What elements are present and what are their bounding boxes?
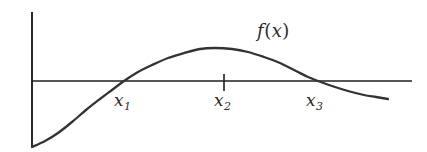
function-label-arg: x — [272, 20, 282, 41]
root-label-x1-subscript: 1 — [124, 100, 132, 113]
root-label-x1: x1 — [114, 92, 131, 112]
root-label-x2-base: x — [214, 90, 224, 110]
plot-canvas — [0, 0, 427, 152]
root-label-x3: x3 — [306, 92, 323, 112]
curve-group — [32, 48, 388, 147]
function-label-close-paren: ) — [282, 20, 290, 41]
root-label-x1-base: x — [114, 90, 124, 110]
root-label-x3-base: x — [306, 90, 316, 110]
function-plot-figure: f(x) x1 x2 x3 — [0, 0, 427, 152]
root-label-x2: x2 — [214, 92, 231, 112]
axes-group — [32, 12, 412, 147]
root-label-x2-subscript: 2 — [224, 100, 232, 113]
function-curve — [32, 48, 388, 147]
function-label-f: f — [257, 20, 264, 41]
root-label-x3-subscript: 3 — [316, 100, 324, 113]
function-label: f(x) — [257, 22, 290, 40]
function-label-open-paren: ( — [264, 20, 272, 41]
